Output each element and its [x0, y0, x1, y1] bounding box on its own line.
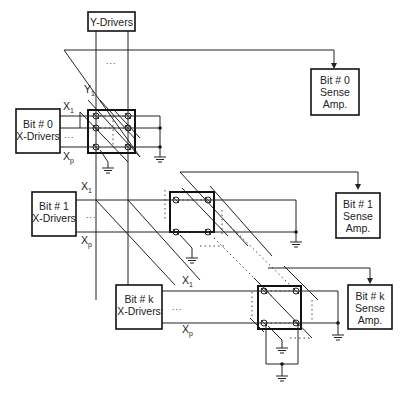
y-ellipsis: ... — [106, 56, 117, 66]
svg-text:X: X — [81, 234, 88, 246]
svg-text:X-Drivers: X-Drivers — [117, 305, 161, 317]
svg-text:X: X — [81, 180, 88, 192]
svg-text:X-Drivers: X-Drivers — [32, 212, 76, 224]
svg-text:...: ... — [172, 302, 183, 312]
y-drivers-box: Y-Drivers — [88, 12, 135, 31]
svg-text:p: p — [70, 157, 74, 165]
svg-text:Amp.: Amp. — [323, 98, 348, 110]
sense-line-bit0 — [64, 50, 337, 157]
x1-label-plane-k: X 1 — [182, 274, 193, 288]
x-drivers-bit0: Bit # 0 X-Drivers X 1 X p ... — [16, 100, 75, 165]
svg-text:p: p — [88, 241, 92, 249]
svg-text:Bit # 0: Bit # 0 — [320, 74, 350, 86]
core-memory-diagram: Y-Drivers ... Y 1 Bit # 0 Sense Amp. — [0, 0, 408, 394]
svg-text:...: ... — [86, 210, 97, 220]
svg-text:Bit # 0: Bit # 0 — [23, 118, 53, 130]
x-drivers-bit-k: Bit # k X-Drivers X p ... — [116, 285, 193, 338]
svg-text:X: X — [182, 323, 189, 335]
svg-text:Bit # k: Bit # k — [124, 293, 154, 305]
svg-text:Y: Y — [84, 83, 91, 95]
svg-text:X: X — [182, 274, 189, 286]
svg-text:X-Drivers: X-Drivers — [16, 130, 60, 142]
svg-text:Bit # 1: Bit # 1 — [39, 200, 69, 212]
svg-text:...: ... — [64, 130, 75, 140]
plane1-diagonals — [96, 172, 290, 296]
svg-text:X: X — [63, 100, 70, 112]
svg-text:Bit # 1: Bit # 1 — [343, 198, 373, 210]
svg-text:p: p — [189, 330, 193, 338]
svg-text:Amp.: Amp. — [358, 314, 383, 326]
sense-line-bit1 — [180, 172, 361, 190]
sense-amp-bit0: Bit # 0 Sense Amp. — [311, 69, 359, 115]
svg-text:1: 1 — [88, 187, 92, 194]
x-drivers-bit1: Bit # 1 X-Drivers X 1 X p ... — [32, 180, 97, 249]
svg-text:X: X — [63, 150, 70, 162]
svg-text:Sense: Sense — [343, 210, 373, 222]
svg-text:Amp.: Amp. — [346, 222, 371, 234]
y-drive-lines — [96, 30, 128, 300]
sense-amp-bit1: Bit # 1 Sense Amp. — [336, 193, 380, 238]
svg-text:Bit # k: Bit # k — [355, 290, 385, 302]
sense-line-bit-k — [268, 268, 373, 284]
svg-text:Sense: Sense — [355, 302, 385, 314]
sense-amp-bit-k: Bit # k Sense Amp. — [348, 285, 392, 329]
svg-text:1: 1 — [189, 281, 193, 288]
y-drivers-label: Y-Drivers — [90, 16, 133, 28]
svg-text:1: 1 — [70, 107, 74, 114]
svg-text:Sense: Sense — [320, 86, 350, 98]
